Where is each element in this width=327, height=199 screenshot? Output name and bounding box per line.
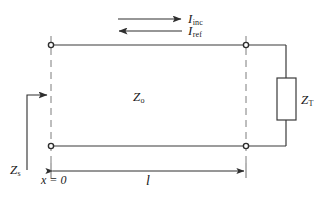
length-label: l (146, 174, 150, 188)
schematic-canvas (0, 0, 327, 199)
origin-label: x = 0 (41, 174, 66, 186)
reflected-current-symbol: I (188, 23, 192, 38)
transmission-line-figure: Iinc Iref Zo ZT Zs x = 0 l (0, 0, 327, 199)
characteristic-impedance-symbol: Z (133, 89, 140, 104)
reflected-current-subscript: ref (193, 30, 203, 39)
characteristic-impedance-subscript: o (141, 96, 145, 105)
node-top-left (48, 42, 53, 47)
terminating-impedance-subscript: T (309, 99, 314, 108)
node-bottom-right (243, 143, 248, 148)
node-top-right (243, 42, 248, 47)
node-bottom-left (48, 143, 53, 148)
source-impedance-symbol: Z (10, 162, 17, 177)
source-impedance-subscript: s (18, 169, 21, 178)
terminating-impedance-box (277, 78, 296, 120)
terminating-impedance-symbol: Z (301, 92, 308, 107)
source-impedance-bracket (27, 95, 47, 170)
terminating-impedance-label: ZT (301, 93, 313, 106)
reflected-current-label: Iref (188, 24, 202, 37)
source-impedance-label: Zs (10, 163, 21, 176)
characteristic-impedance-label: Zo (133, 90, 144, 103)
